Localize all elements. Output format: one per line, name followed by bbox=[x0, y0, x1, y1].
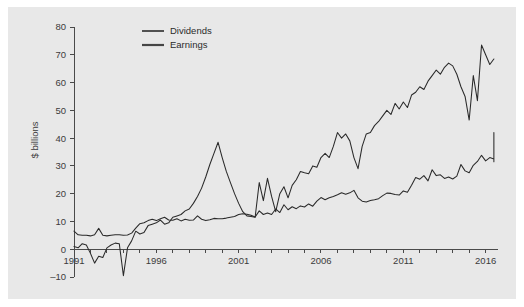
y-tick-label: 20 bbox=[55, 188, 66, 199]
series-lines bbox=[74, 45, 494, 276]
chart-plot-area: –1001020304050607080 1991199620012006201… bbox=[0, 0, 524, 307]
legend-label-dividends: Dividends bbox=[170, 25, 212, 36]
y-tick-label: –10 bbox=[50, 271, 66, 282]
x-tick-label: 2011 bbox=[393, 255, 413, 266]
legend-label-earnings: Earnings bbox=[170, 39, 208, 50]
x-tick-label: 1996 bbox=[146, 255, 167, 266]
chart-figure: –1001020304050607080 1991199620012006201… bbox=[0, 0, 524, 307]
y-tick-label: 40 bbox=[55, 133, 66, 144]
x-tick-label: 2006 bbox=[310, 255, 331, 266]
y-axis: –1001020304050607080 bbox=[50, 21, 74, 282]
y-tick-label: 10 bbox=[55, 216, 66, 227]
y-axis-title-text: $ billions bbox=[29, 121, 40, 158]
y-tick-label: 30 bbox=[55, 160, 66, 171]
x-tick-label: 2001 bbox=[228, 255, 249, 266]
x-tick-label: 2016 bbox=[475, 255, 496, 266]
series-line-dividends bbox=[74, 133, 494, 236]
y-tick-label: 0 bbox=[61, 244, 66, 255]
y-tick-label: 70 bbox=[55, 49, 66, 60]
y-tick-label: 80 bbox=[55, 21, 66, 32]
y-tick-label: 50 bbox=[55, 105, 66, 116]
y-tick-label: 60 bbox=[55, 77, 66, 88]
x-tick-label: 1991 bbox=[63, 255, 84, 266]
series-line-earnings bbox=[74, 45, 494, 276]
y-axis-title: $ billions bbox=[29, 121, 40, 158]
x-axis: 199119962001200620112016 bbox=[63, 249, 498, 266]
chart-legend: DividendsEarnings bbox=[142, 25, 212, 50]
